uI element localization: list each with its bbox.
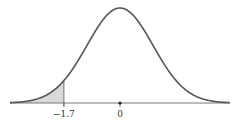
x-tick-label: 0 [117,109,123,119]
x-tick-label: −1.7 [53,109,75,119]
x-ticks [64,101,122,107]
normal-curve [10,8,230,103]
